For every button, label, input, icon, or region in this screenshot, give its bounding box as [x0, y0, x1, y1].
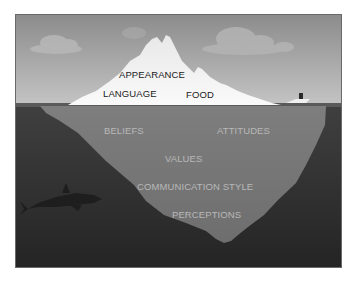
label-appearance: APPEARANCE	[119, 69, 185, 80]
label-communication-style: COMMUNICATION STYLE	[137, 181, 253, 192]
label-beliefs: BELIEFS	[104, 125, 144, 136]
label-food: FOOD	[186, 89, 214, 100]
label-perceptions: PERCEPTIONS	[172, 209, 241, 220]
cloud-center-icon	[122, 27, 146, 39]
iceberg-illustration: APPEARANCE LANGUAGE FOOD BELIEFS ATTITUD…	[15, 14, 342, 268]
iceberg-scene	[16, 15, 342, 268]
label-values: VALUES	[165, 153, 202, 164]
label-language: LANGUAGE	[103, 88, 157, 99]
label-attitudes: ATTITUDES	[217, 125, 270, 136]
